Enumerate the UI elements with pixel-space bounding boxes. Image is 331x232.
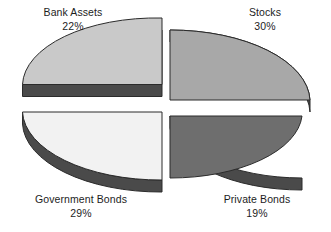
pie-label-bank-assets: Bank Assets 22%: [14, 6, 132, 33]
pie-slice-stocks[interactable]: [170, 30, 310, 112]
pie-label-private-bonds-name: Private Bonds: [198, 193, 316, 207]
pie-label-government-bonds-value: 29%: [11, 207, 151, 221]
pie-label-private-bonds-value: 19%: [198, 207, 316, 221]
pie-slice-stocks-top: [170, 30, 310, 100]
pie-label-private-bonds: Private Bonds 19%: [198, 193, 316, 220]
pie-label-stocks-name: Stocks: [213, 6, 317, 20]
pie-label-government-bonds-name: Government Bonds: [11, 193, 151, 207]
pie-slice-private-bonds-top: [170, 116, 302, 178]
pie-label-government-bonds: Government Bonds 29%: [11, 193, 151, 220]
pie-slice-government-bonds-top: [23, 112, 163, 180]
pie-label-bank-assets-value: 22%: [14, 20, 132, 34]
pie-slice-private-bonds[interactable]: [170, 116, 302, 190]
pie-label-bank-assets-name: Bank Assets: [14, 6, 132, 20]
pie-label-stocks: Stocks 30%: [213, 6, 317, 33]
pie-slice-government-bonds[interactable]: [23, 112, 163, 192]
pie-chart: Bank Assets 22% Stocks 30% Government Bo…: [0, 0, 331, 232]
pie-label-stocks-value: 30%: [213, 20, 317, 34]
